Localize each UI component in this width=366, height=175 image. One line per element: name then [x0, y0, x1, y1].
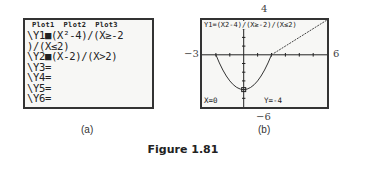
y4-line: \Y4= — [27, 72, 51, 83]
cursor-x-readout: X=0 — [204, 96, 218, 105]
caption-a: (a) — [81, 124, 93, 135]
calculator-y-editor-screen: Plot1 Plot2 Plot3 \Y1■(X²-4)/(X≥-2 )/(X≤… — [23, 18, 154, 109]
y6-line: \Y6= — [27, 93, 51, 104]
ymax-label: 4 — [261, 3, 267, 14]
ymin-label: −6 — [256, 111, 271, 122]
y1-line: \Y1■(X²-4)/(X≥-2 — [27, 30, 123, 41]
graph-plot — [202, 20, 327, 107]
caption-b: (b) — [258, 124, 270, 135]
y2-line: \Y2■(X-2)/(X>2) — [27, 51, 117, 62]
xmin-label: −3 — [184, 48, 199, 59]
plot-tabs: Plot1 Plot2 Plot3 — [32, 21, 118, 29]
graph-equation: Y1=(X2-4)/(X≥-2)/(X≤2) — [204, 21, 297, 29]
xmax-label: 6 — [333, 48, 339, 59]
calculator-graph-screen: Y1=(X2-4)/(X≥-2)/(X≤2) X=0 Y=-4 — [200, 18, 329, 109]
cursor-y-readout: Y=-4 — [264, 96, 282, 105]
figure-label: Figure 1.81 — [0, 143, 366, 156]
